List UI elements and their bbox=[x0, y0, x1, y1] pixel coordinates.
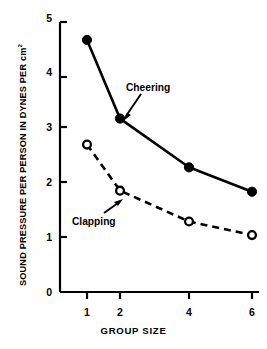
y-axis-label-text: SOUND PRESSURE PER PERSON IN DYNES PER c… bbox=[17, 44, 28, 286]
clapping-annotation-arrow bbox=[104, 199, 123, 213]
y-axis-label-main: SOUND PRESSURE PER PERSON IN DYNES PER c… bbox=[19, 48, 29, 286]
cheering-series-label: Cheering bbox=[126, 82, 170, 93]
x-tick-label-4: 4 bbox=[181, 306, 197, 318]
y-tick-label-2: 2 bbox=[38, 176, 52, 188]
x-tick-label-6: 6 bbox=[244, 306, 260, 318]
y-tick-label-4: 4 bbox=[38, 66, 52, 78]
clapping-point-1 bbox=[83, 141, 91, 149]
cheering-markers bbox=[82, 35, 256, 196]
clapping-point-4 bbox=[185, 218, 193, 226]
cheering-point-4 bbox=[184, 163, 193, 172]
cheering-point-2 bbox=[115, 114, 124, 123]
y-tick-label-0: 0 bbox=[38, 286, 52, 298]
x-tick-label-2: 2 bbox=[112, 306, 128, 318]
y-axis-label: SOUND PRESSURE PER PERSON IN DYNES PER c… bbox=[12, 20, 34, 310]
cheering-point-1 bbox=[82, 35, 91, 44]
cheering-line bbox=[87, 40, 252, 192]
clapping-series-label: Clapping bbox=[72, 216, 116, 227]
cheering-point-6 bbox=[247, 187, 256, 196]
y-tick-label-3: 3 bbox=[38, 121, 52, 133]
chart-figure: SOUND PRESSURE PER PERSON IN DYNES PER c… bbox=[0, 0, 267, 349]
y-tick-label-1: 1 bbox=[38, 231, 52, 243]
y-tick-label-5: 5 bbox=[38, 12, 52, 24]
y-axis-label-exponent: 2 bbox=[17, 44, 23, 48]
clapping-point-2 bbox=[116, 187, 124, 195]
cheering-annotation-arrow bbox=[122, 94, 141, 122]
clapping-point-6 bbox=[248, 231, 256, 239]
x-axis-label: GROUP SIZE bbox=[0, 325, 267, 336]
x-tick-label-1: 1 bbox=[79, 306, 95, 318]
